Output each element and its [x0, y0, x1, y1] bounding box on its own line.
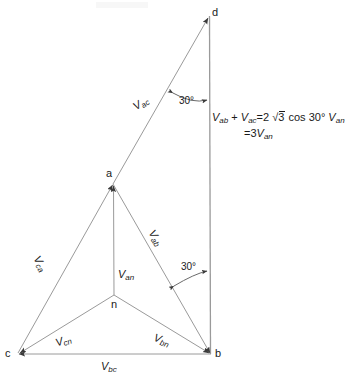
eq-plus: +	[231, 111, 237, 123]
vector-label-van: Van	[118, 269, 134, 280]
phasor-diagram-canvas	[0, 0, 361, 380]
van-sub: an	[125, 273, 134, 282]
phasor-diagram-figure: d a b c n Vac Vab Vca Van Vcn Vbn Vbc 30…	[0, 0, 361, 380]
node-label-d: d	[212, 7, 218, 18]
equation-line-1: Vab + Vac=2 √3 cos 30° Van	[212, 110, 345, 126]
eq-v-ab-sub: ab	[219, 116, 228, 125]
line-bd	[210, 16, 211, 354]
eq-sqrt: √3	[272, 110, 285, 126]
equation-line-2: =3Van	[212, 126, 345, 142]
eq-cos: cos 30°	[288, 111, 325, 123]
eq-coef: 2	[263, 111, 269, 123]
eq-rhs-v-base: V	[328, 111, 335, 123]
eq-rhs2-v-base: V	[257, 127, 264, 139]
eq-rhs-v-sub: an	[336, 116, 345, 125]
node-label-b: b	[215, 348, 221, 359]
angle-label-upper: 30°	[179, 96, 194, 106]
line-van	[114, 186, 115, 295]
node-label-c: c	[5, 348, 11, 359]
vector-label-vcn: Vcn	[54, 333, 73, 349]
angle-label-lower: 30°	[181, 262, 196, 272]
angle-arc-lower	[174, 271, 207, 286]
equation-block: Vab + Vac=2 √3 cos 30° Van =3Van	[212, 110, 345, 142]
vector-label-vbc: Vbc	[101, 361, 117, 372]
eq-v-ac-sub: ac	[248, 116, 256, 125]
eq-sqrt-radicand: 3	[278, 111, 284, 123]
node-label-a: a	[106, 168, 112, 179]
vbc-sub: bc	[108, 365, 116, 374]
node-label-n: n	[111, 299, 117, 310]
line-vca	[18, 185, 113, 353]
eq-rhs2-v-sub: an	[264, 132, 273, 141]
sqrt-bar	[279, 111, 285, 112]
